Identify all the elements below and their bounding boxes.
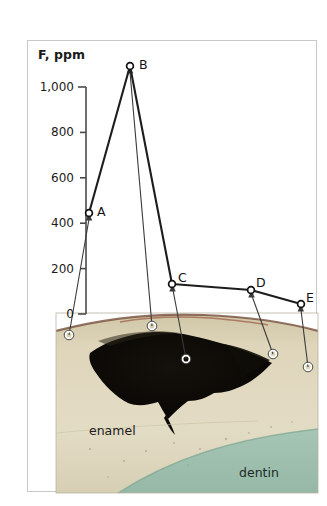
fluoride-profile-line — [89, 66, 301, 304]
data-point-c[interactable] — [169, 281, 176, 288]
ytick-label-0: 0 — [28, 307, 74, 321]
ytick-label-200: 200 — [28, 262, 74, 276]
data-point-b[interactable] — [127, 63, 134, 70]
ytick-label-400: 400 — [28, 216, 74, 230]
ytick-label-1000: 1,000 — [28, 80, 74, 94]
data-point-d[interactable] — [248, 287, 255, 294]
point-label-d: D — [256, 275, 266, 290]
y-axis — [78, 87, 86, 314]
data-point-markers — [86, 63, 305, 308]
ytick-label-600: 600 — [28, 171, 74, 185]
point-label-e: E — [306, 290, 314, 305]
data-point-e[interactable] — [298, 301, 305, 308]
data-point-a[interactable] — [86, 210, 93, 217]
specimen-site-marker-cores — [64, 321, 313, 372]
leader-arrowheads — [86, 66, 304, 312]
figure-frame: F, ppm — [27, 40, 317, 492]
point-label-b: B — [139, 57, 148, 72]
point-label-c: C — [178, 270, 187, 285]
ytick-label-800: 800 — [28, 125, 74, 139]
leader-lines — [69, 72, 308, 367]
point-label-a: A — [97, 204, 106, 219]
dentin-label: dentin — [239, 465, 279, 480]
enamel-label: enamel — [89, 423, 136, 438]
